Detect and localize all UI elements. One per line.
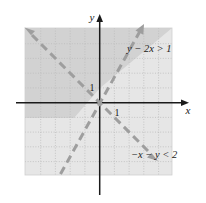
inequality-graph-figure: 1 1 y x y − 2x > 1 −x − y < 2 xyxy=(0,0,206,203)
y-tick-label-1: 1 xyxy=(90,82,95,93)
inequality-label-1: y − 2x > 1 xyxy=(126,43,172,54)
y-axis-arrowhead xyxy=(96,14,103,22)
y-axis-label: y xyxy=(89,11,95,23)
x-axis-label: x xyxy=(185,104,191,116)
x-tick-label-1: 1 xyxy=(115,107,120,118)
graph-canvas: 1 1 y x y − 2x > 1 −x − y < 2 xyxy=(0,0,206,203)
inequality-label-2: −x − y < 2 xyxy=(131,149,178,160)
